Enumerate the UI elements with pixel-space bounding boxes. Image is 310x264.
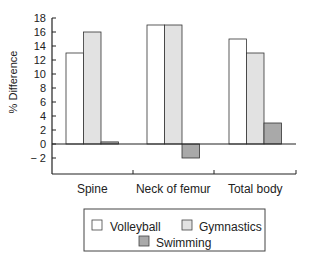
bar-volleyball-1 bbox=[147, 25, 165, 144]
legend-swatch-swimming bbox=[139, 236, 149, 246]
bar-gymnastics-2 bbox=[247, 53, 265, 144]
y-tick-label: 4 bbox=[40, 110, 46, 122]
y-tick-label: 2 bbox=[40, 124, 46, 136]
bar-swimming-2 bbox=[264, 123, 282, 144]
y-tick-label: − 2 bbox=[30, 152, 46, 164]
x-category-label: Spine bbox=[77, 182, 108, 196]
y-axis-label: % Difference bbox=[7, 51, 19, 114]
legend-swatch-gymnastics bbox=[182, 220, 192, 230]
legend-label-volleyball: Volleyball bbox=[110, 220, 161, 234]
y-tick-label: 6 bbox=[40, 96, 46, 108]
y-tick-label: 14 bbox=[34, 40, 46, 52]
legend-swatch-volleyball bbox=[92, 220, 102, 230]
bar-chart: − 2024681012141618% DifferenceSpineNeck … bbox=[0, 0, 310, 264]
x-category-label: Total body bbox=[228, 182, 283, 196]
y-tick-label: 10 bbox=[34, 68, 46, 80]
y-tick-label: 12 bbox=[34, 54, 46, 66]
bar-volleyball-0 bbox=[66, 53, 84, 144]
y-tick-label: 18 bbox=[34, 12, 46, 24]
y-tick-label: 0 bbox=[40, 138, 46, 150]
bar-swimming-1 bbox=[182, 144, 200, 158]
bar-gymnastics-1 bbox=[165, 25, 183, 144]
y-tick-label: 16 bbox=[34, 26, 46, 38]
bar-volleyball-2 bbox=[229, 39, 247, 144]
x-category-label: Neck of femur bbox=[136, 182, 211, 196]
bar-gymnastics-0 bbox=[84, 32, 102, 144]
legend-label-swimming: Swimming bbox=[156, 236, 211, 250]
legend-label-gymnastics: Gymnastics bbox=[199, 220, 262, 234]
y-tick-label: 8 bbox=[40, 82, 46, 94]
